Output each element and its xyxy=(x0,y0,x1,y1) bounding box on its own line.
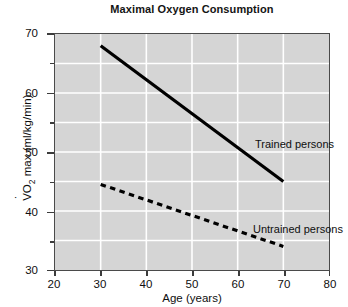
x-tick-30 xyxy=(100,271,102,276)
x-tick-60 xyxy=(238,271,240,276)
x-tick-label-80: 80 xyxy=(315,279,345,291)
x-tick-80 xyxy=(329,271,331,276)
x-axis-title: Age (years) xyxy=(54,292,330,304)
y-tick-35 xyxy=(50,241,54,243)
y-axis-title-v: V xyxy=(21,193,33,201)
x-tick-label-40: 40 xyxy=(131,279,161,291)
x-tick-50 xyxy=(192,271,194,276)
x-tick-label-30: 30 xyxy=(85,279,115,291)
x-axis-ticks xyxy=(54,271,330,277)
chart-title: Maximal Oxygen Consumption xyxy=(54,3,330,15)
series-label-untrained: Untrained persons xyxy=(253,223,343,235)
y-tick-40 xyxy=(47,212,54,214)
y-tick-50 xyxy=(47,152,54,154)
plot-area: Trained persons Untrained persons xyxy=(54,33,330,271)
y-tick-45 xyxy=(50,182,54,184)
y-axis-title: VO2 max (ml/kg/min) xyxy=(21,53,36,243)
x-tick-label-60: 60 xyxy=(223,279,253,291)
y-tick-60 xyxy=(47,93,54,95)
y-tick-70 xyxy=(47,33,54,35)
x-tick-40 xyxy=(146,271,148,276)
y-tick-30 xyxy=(47,270,54,272)
x-tick-label-70: 70 xyxy=(269,279,299,291)
x-tick-label-50: 50 xyxy=(177,279,207,291)
y-axis-ticks xyxy=(40,33,54,271)
y-axis-title-o: O xyxy=(21,184,33,193)
y-axis-title-subscript: 2 xyxy=(27,179,37,184)
series-label-trained: Trained persons xyxy=(255,138,334,150)
chart-figure: Maximal Oxygen Consumption xyxy=(0,0,348,307)
y-axis-title-rest: max (ml/kg/min) xyxy=(21,94,33,179)
x-tick-20 xyxy=(54,271,56,276)
y-tick-55 xyxy=(50,122,54,124)
x-tick-70 xyxy=(284,271,286,276)
y-tick-label-30: 30 xyxy=(25,265,38,277)
y-tick-65 xyxy=(50,63,54,65)
x-tick-label-20: 20 xyxy=(39,279,69,291)
y-tick-label-70: 70 xyxy=(25,28,38,40)
